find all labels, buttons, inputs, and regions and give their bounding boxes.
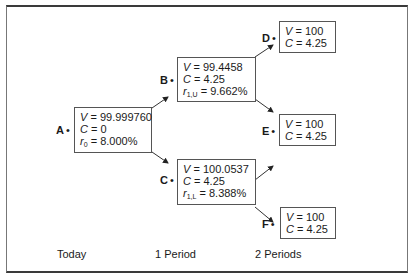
node-a-label: A• xyxy=(56,124,70,136)
node-d-value: V = 100 xyxy=(285,25,330,37)
node-e-box: V = 100 C = 4.25 xyxy=(279,114,336,146)
edge-a-c xyxy=(152,152,168,163)
node-a-value: V = 99.999760 xyxy=(80,111,146,123)
node-c-label: C• xyxy=(160,174,174,186)
node-a-box: V = 99.999760 C = 0 r0 = 8.000% xyxy=(74,107,152,153)
period-label-2: 2 Periods xyxy=(255,248,301,260)
node-e-coupon: C = 4.25 xyxy=(285,130,330,142)
node-b-label: B• xyxy=(160,74,174,86)
node-e-value: V = 100 xyxy=(285,118,330,130)
edge-a-b xyxy=(152,97,168,108)
node-d-label: D• xyxy=(262,32,276,44)
node-d-coupon: C = 4.25 xyxy=(285,37,330,49)
tree-edges xyxy=(0,0,411,280)
edge-c-e xyxy=(255,166,273,180)
edge-b-e xyxy=(255,99,273,112)
node-a-rate: r0 = 8.000% xyxy=(80,135,146,151)
edge-b-d xyxy=(255,45,273,57)
node-f-label: F• xyxy=(262,218,275,230)
node-c-value: V = 100.0537 xyxy=(183,163,250,175)
node-b-box: V = 99.4458 C = 4.25 r1,U = 9.662% xyxy=(177,57,256,102)
node-b-coupon: C = 4.25 xyxy=(183,73,250,85)
node-c-coupon: C = 4.25 xyxy=(183,175,250,187)
node-c-box: V = 100.0537 C = 4.25 r1,L = 8.388% xyxy=(177,159,256,205)
node-e-label: E• xyxy=(262,125,275,137)
node-f-value: V = 100 xyxy=(286,211,330,223)
node-b-rate: r1,U = 9.662% xyxy=(183,85,250,101)
period-label-1: 1 Period xyxy=(155,248,196,260)
node-b-value: V = 99.4458 xyxy=(183,61,250,73)
period-label-today: Today xyxy=(57,248,86,260)
node-a-coupon: C = 0 xyxy=(80,123,146,135)
node-d-box: V = 100 C = 4.25 xyxy=(279,21,336,53)
node-f-box: V = 100 C = 4.25 xyxy=(280,207,336,239)
node-c-rate: r1,L = 8.388% xyxy=(183,187,250,203)
node-f-coupon: C = 4.25 xyxy=(286,223,330,235)
